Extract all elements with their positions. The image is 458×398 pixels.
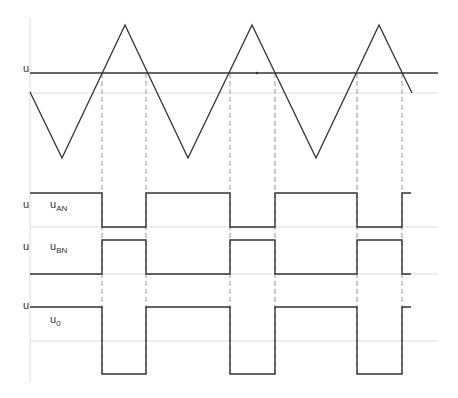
u-bn-label-sub: BN: [56, 246, 67, 255]
reference-marker-dot: [256, 72, 258, 74]
u-bn-label: uBN: [50, 240, 67, 255]
u0-axis-label: u: [23, 299, 29, 311]
gridlines: [30, 93, 438, 341]
triangle-carrier: [30, 25, 412, 158]
reference-label: u: [23, 62, 29, 74]
u0-label: u0: [50, 313, 61, 328]
u-an-axis-label: u: [23, 198, 29, 210]
pwm-waveform-diagram: [0, 0, 458, 398]
u-bn-axis-label: u: [23, 240, 29, 252]
u-an-trace: [30, 193, 411, 227]
u0-label-sub: 0: [56, 319, 60, 328]
u-an-label-sub: AN: [56, 204, 67, 213]
pwm-traces: [30, 193, 411, 374]
u-bn-trace: [30, 240, 411, 274]
u-an-label: uAN: [50, 198, 67, 213]
